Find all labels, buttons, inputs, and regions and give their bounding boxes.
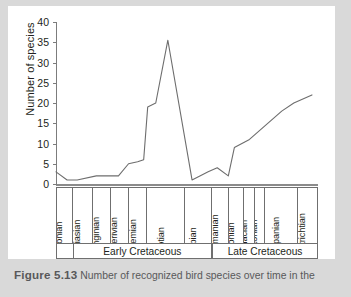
stage-label: Hauterivian — [111, 217, 120, 243]
stage-column: Coniacian — [244, 188, 254, 243]
stage-label: Santonian — [255, 220, 260, 243]
y-axis-tick-label: 35 — [37, 37, 49, 47]
stage-label: Turonian — [229, 222, 236, 243]
stage-label: Albian — [188, 228, 198, 243]
stage-column: Campanian — [265, 188, 298, 243]
stage-column: Santonian — [255, 188, 265, 243]
stage-label: Berriasian — [73, 220, 82, 243]
stage-label: Campanian — [271, 217, 281, 243]
stage-label: Valanginian — [93, 217, 102, 243]
y-axis-tick-label: 30 — [37, 58, 49, 68]
stage-table: TithonianBerriasianValanginianHauterivia… — [56, 187, 318, 259]
period-band: Late Cretaceous — [212, 244, 317, 259]
stage-label: Cenomanian — [212, 214, 220, 243]
stage-column: Barremian — [129, 188, 147, 243]
figure-container: Number of species 0510152025303540 Titho… — [0, 0, 351, 297]
period-band-empty — [57, 244, 73, 259]
stage-label: Aptian — [156, 227, 166, 243]
stage-row: TithonianBerriasianValanginianHauterivia… — [57, 188, 317, 243]
stage-label: Tithonian — [57, 222, 64, 243]
stage-column: Tithonian — [57, 188, 73, 243]
y-axis-title: Number of species — [24, 9, 36, 129]
caption-label: Figure 5.13 — [14, 268, 77, 281]
stage-column: Aptian — [147, 188, 185, 243]
chart-panel: Number of species 0510152025303540 Titho… — [8, 6, 335, 259]
stage-column: Albian — [185, 188, 212, 243]
stage-label: Maastrichtian — [298, 213, 308, 243]
y-axis-tick-label: 40 — [37, 17, 49, 27]
figure-caption: Figure 5.13 Number of recognized bird sp… — [14, 268, 344, 281]
stage-label: Barremian — [129, 219, 138, 243]
data-line-svg — [56, 22, 318, 185]
stage-column: Hauterivian — [111, 188, 129, 243]
y-axis-tick-label: 20 — [37, 98, 49, 108]
y-axis-tick-label: 10 — [37, 139, 49, 149]
y-axis-tick-label: 5 — [43, 159, 49, 169]
y-axis-tick-label: 25 — [37, 78, 49, 88]
plot-area: 0510152025303540 — [56, 22, 318, 185]
y-axis-tick-label: 0 — [43, 179, 49, 189]
stage-column: Maastrichtian — [298, 188, 317, 243]
period-band: Early Cretaceous — [73, 244, 213, 259]
y-axis-tick-label: 15 — [37, 118, 49, 128]
species-line — [56, 40, 312, 180]
stage-column: Cenomanian — [212, 188, 229, 243]
stage-column: Valanginian — [93, 188, 111, 243]
stage-column: Berriasian — [73, 188, 93, 243]
stage-label: Coniacian — [244, 220, 249, 243]
period-row: Early CretaceousLate Cretaceous — [57, 243, 317, 259]
stage-column: Turonian — [229, 188, 244, 243]
caption-text: Number of recognized bird species over t… — [80, 270, 314, 281]
